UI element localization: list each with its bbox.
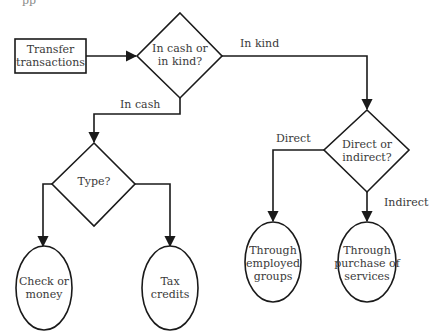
svg-text:purchase of: purchase of xyxy=(334,257,400,270)
svg-text:Through: Through xyxy=(249,244,297,257)
edge-in-kind: In kind xyxy=(222,37,367,109)
svg-text:Through: Through xyxy=(343,244,391,257)
svg-text:Check or: Check or xyxy=(19,275,70,288)
edge-in-cash: In cash xyxy=(94,98,180,142)
decision-type: Type? xyxy=(52,143,135,226)
edge-label-in-cash: In cash xyxy=(120,98,160,111)
svg-text:Direct or: Direct or xyxy=(342,138,393,151)
decision-cash-or-kind: In cash or in kind? xyxy=(137,13,222,98)
edge-type-to-check xyxy=(43,184,52,246)
svg-text:money: money xyxy=(26,288,64,301)
flowchart: pp In kind In cash Direct Indirect Trans… xyxy=(0,0,437,336)
cropped-text-fragment: pp xyxy=(22,0,36,7)
svg-text:In cash or: In cash or xyxy=(152,42,208,55)
edge-indirect: Indirect xyxy=(367,192,429,221)
outcome-through-employed-groups: Through employed groups xyxy=(245,222,301,302)
svg-text:employed: employed xyxy=(246,257,300,270)
svg-text:groups: groups xyxy=(254,270,293,283)
outcome-check-or-money: Check or money xyxy=(16,246,72,330)
edge-label-in-kind: In kind xyxy=(240,37,279,50)
svg-text:Transfer: Transfer xyxy=(27,43,75,56)
outcome-tax-credits: Tax credits xyxy=(142,246,198,330)
decision-direct-or-indirect: Direct or indirect? xyxy=(324,110,409,192)
svg-text:Type?: Type? xyxy=(78,175,111,188)
svg-text:transactions: transactions xyxy=(16,56,85,69)
svg-text:Tax: Tax xyxy=(160,275,180,288)
edge-label-indirect: Indirect xyxy=(384,196,429,209)
outcome-through-purchase-of-services: Through purchase of services xyxy=(334,222,400,302)
node-transfer-transactions: Transfer transactions xyxy=(15,39,86,73)
svg-text:credits: credits xyxy=(151,288,190,301)
svg-text:indirect?: indirect? xyxy=(342,151,392,164)
svg-text:services: services xyxy=(344,270,390,283)
edge-direct: Direct xyxy=(273,132,324,221)
edge-label-direct: Direct xyxy=(276,132,311,145)
edge-type-to-tax xyxy=(135,184,170,246)
svg-text:in kind?: in kind? xyxy=(158,55,202,68)
